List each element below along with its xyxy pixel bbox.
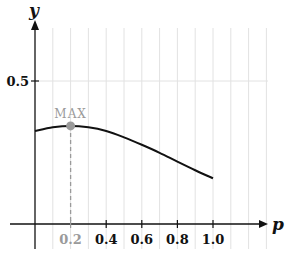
axes	[10, 20, 268, 249]
y-axis-arrow-icon	[31, 20, 39, 30]
grid-lines	[35, 28, 268, 249]
x-tick-label: 1.0	[202, 232, 225, 247]
y-tick-label: 0.5	[6, 74, 29, 89]
x-tick-label: 0.8	[166, 232, 189, 247]
max-annotation-label: MAX	[54, 107, 87, 121]
y-axis-label: y	[28, 0, 40, 20]
chart: 0.20.40.60.81.00.5 p y MAX	[0, 0, 285, 259]
x-axis-label: p	[272, 214, 284, 234]
x-tick-label: 0.6	[130, 232, 153, 247]
x-tick-label: 0.4	[95, 232, 118, 247]
x-tick-label: 0.2	[59, 232, 82, 247]
ticks: 0.20.40.60.81.00.5	[6, 74, 224, 247]
max-point-marker	[66, 121, 75, 130]
